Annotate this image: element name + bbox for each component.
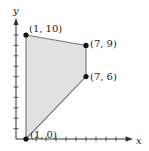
vertex-label: (7, 6) — [90, 71, 117, 82]
vertex-label: (1, 0) — [30, 129, 57, 140]
polygon-region-plot: (1, 10)(7, 9)(7, 6)(1, 0) x y — [0, 0, 149, 151]
vertex-point — [23, 32, 28, 37]
shaded-polygon-region — [26, 35, 86, 139]
x-axis-arrow-icon — [126, 137, 133, 142]
x-axis-label: x — [136, 135, 142, 146]
vertex-point — [83, 74, 88, 79]
vertex-point — [23, 136, 28, 141]
vertex-point — [83, 43, 88, 48]
vertex-label: (1, 10) — [29, 23, 62, 34]
y-axis-arrow-icon — [14, 18, 19, 25]
vertex-label: (7, 9) — [90, 38, 117, 49]
y-axis-label: y — [12, 5, 19, 16]
